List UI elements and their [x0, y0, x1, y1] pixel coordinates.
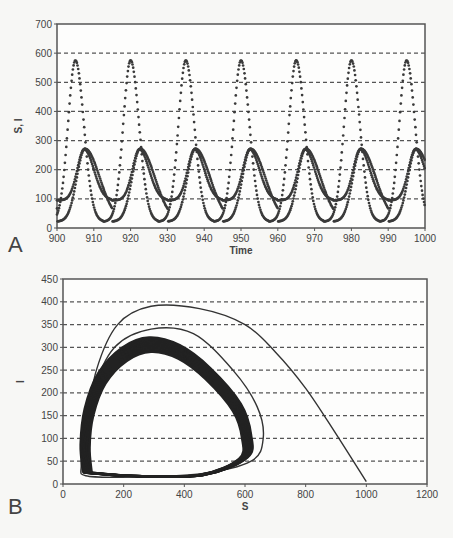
chart-a-time-series: 0100200300400500600700900910920930940950… [13, 19, 437, 257]
panel-label-a: A [8, 232, 23, 257]
y-tick-label: 300 [35, 135, 52, 146]
y-tick-label: 700 [35, 19, 52, 30]
y-axis-label: I [15, 380, 26, 383]
x-axis-label: S [242, 501, 249, 512]
y-tick-label: 400 [35, 106, 52, 117]
y-tick-label: 450 [41, 274, 58, 285]
plot-area [57, 24, 425, 228]
y-tick-label: 0 [46, 223, 52, 234]
y-tick-label: 600 [35, 48, 52, 59]
y-tick-label: 200 [41, 387, 58, 398]
x-axis-label: Time [229, 245, 253, 256]
y-tick-label: 100 [35, 193, 52, 204]
x-tick-label: 960 [269, 233, 286, 244]
y-tick-label: 200 [35, 164, 52, 175]
y-tick-label: 150 [41, 410, 58, 421]
x-tick-label: 800 [297, 489, 314, 500]
x-tick-label: 1000 [414, 233, 437, 244]
x-tick-label: 200 [115, 489, 132, 500]
x-tick-label: 910 [85, 233, 102, 244]
x-tick-label: 980 [343, 233, 360, 244]
y-tick-label: 0 [52, 479, 58, 490]
y-tick-label: 500 [35, 77, 52, 88]
y-tick-label: 100 [41, 433, 58, 444]
y-axis-label: S, I [13, 118, 24, 133]
x-tick-label: 400 [176, 489, 193, 500]
y-tick-label: 250 [41, 365, 58, 376]
x-tick-label: 0 [60, 489, 66, 500]
x-tick-label: 900 [49, 233, 66, 244]
y-tick-label: 50 [47, 456, 59, 467]
chart-b-phase-plane: 0501001502002503003504004500200400600800… [15, 274, 439, 513]
x-tick-label: 950 [233, 233, 250, 244]
figure: 0100200300400500600700900910920930940950… [0, 0, 453, 538]
y-tick-label: 400 [41, 296, 58, 307]
y-tick-label: 350 [41, 319, 58, 330]
x-tick-label: 930 [159, 233, 176, 244]
x-tick-label: 600 [237, 489, 254, 500]
x-tick-label: 990 [380, 233, 397, 244]
x-tick-label: 920 [122, 233, 139, 244]
x-tick-label: 940 [196, 233, 213, 244]
x-tick-label: 970 [306, 233, 323, 244]
panel-label-b: B [8, 494, 23, 519]
x-tick-label: 1000 [355, 489, 378, 500]
x-tick-label: 1200 [416, 489, 439, 500]
y-tick-label: 300 [41, 342, 58, 353]
